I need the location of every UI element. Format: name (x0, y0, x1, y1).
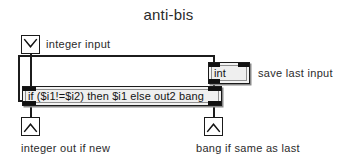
outlet-integer-out[interactable] (21, 117, 40, 136)
wire-inlet-to-int-horizontal (18, 55, 214, 57)
comment-integer-out-if-new: integer out if new (21, 142, 110, 154)
object-expr-label: if ($i1!=$i2) then $i1 else out2 bang (28, 90, 204, 102)
comment-bang-if-same-as-last: bang if same as last (196, 142, 300, 154)
wire-inlet-to-expr-left (30, 53, 32, 87)
object-int[interactable]: int (208, 62, 250, 84)
comment-integer-input: integer input (46, 38, 110, 50)
object-expr[interactable]: if ($i1!=$i2) then $i1 else out2 bang (22, 86, 222, 106)
outlet-bang-out[interactable] (204, 117, 223, 136)
object-int-outlet-left[interactable] (209, 79, 220, 83)
object-expr-outlet-right[interactable] (208, 101, 221, 105)
wire-left-route-vertical (18, 55, 20, 102)
object-int-inlet-right[interactable] (238, 63, 249, 67)
patcher-canvas[interactable]: anti-bis integer input int save last inp… (0, 0, 337, 161)
outlet-chevron-up-icon (22, 118, 39, 135)
outlet-chevron-up-icon (205, 118, 222, 135)
inlet-integer-input[interactable] (21, 35, 40, 54)
object-int-label: int (214, 67, 226, 79)
object-expr-inlet-right[interactable] (208, 87, 221, 91)
page-title: anti-bis (0, 6, 337, 23)
inlet-chevron-down-icon (22, 36, 39, 53)
comment-save-last-input: save last input (258, 67, 333, 79)
